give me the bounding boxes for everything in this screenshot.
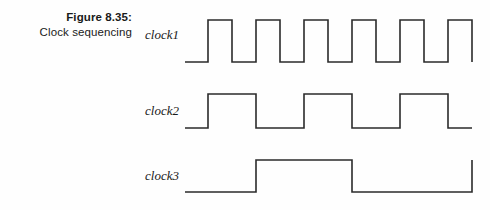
timing-waveform-chart [0,0,490,210]
waveform-clock2 [185,94,472,128]
figure-container: Figure 8.35: Clock sequencing clock1 clo… [0,0,490,210]
waveform-clock3 [185,160,472,192]
waveform-clock1 [185,20,472,62]
